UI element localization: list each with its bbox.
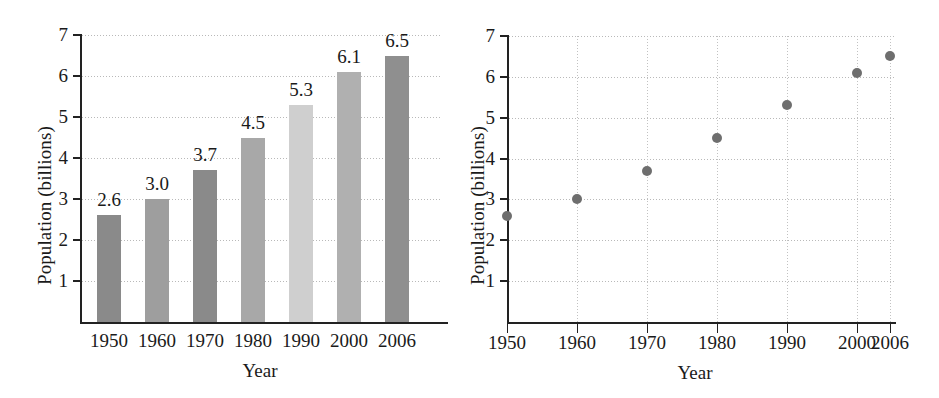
bar-value-label: 4.5 — [225, 113, 281, 132]
bar — [337, 72, 361, 322]
bar-y-tick-label: 5 — [42, 107, 68, 126]
bar-value-label: 3.7 — [177, 145, 233, 164]
scatter-x-tick-label: 1950 — [479, 333, 535, 352]
scatter-gridline-horizontal — [509, 77, 894, 78]
bar — [385, 56, 409, 322]
bar-x-tick-label: 1980 — [227, 331, 279, 350]
scatter-x-tick-label: 1980 — [689, 333, 745, 352]
bar-x-tick-label: 1960 — [131, 331, 183, 350]
scatter-y-tick-label: 2 — [469, 230, 495, 249]
bar-y-axis-line — [80, 35, 82, 324]
scatter-y-tick-label: 1 — [469, 271, 495, 290]
scatter-data-point — [642, 166, 652, 176]
bar-chart-panel: Population (billions) 12345672.619503.01… — [0, 0, 470, 398]
scatter-data-point — [712, 133, 722, 143]
scatter-data-point — [502, 211, 512, 221]
scatter-x-axis-line — [507, 322, 896, 324]
scatter-x-tick-label: 1990 — [759, 333, 815, 352]
scatter-gridline-horizontal — [509, 240, 894, 241]
scatter-data-point — [885, 51, 895, 61]
bar — [241, 138, 265, 322]
scatter-chart-x-axis-label: Year — [635, 362, 755, 384]
scatter-chart-plot-area: 12345671950196019701980199020002006 — [470, 0, 939, 398]
scatter-x-tick-label: 1960 — [549, 333, 605, 352]
bar-y-tick-label: 7 — [42, 25, 68, 44]
scatter-gridline-vertical — [890, 36, 891, 322]
scatter-y-tick-label: 4 — [469, 149, 495, 168]
scatter-gridline-horizontal — [509, 159, 894, 160]
scatter-gridline-vertical — [577, 36, 578, 322]
bar-y-tick-label: 1 — [42, 271, 68, 290]
bar — [193, 170, 217, 322]
bar-value-label: 6.5 — [369, 31, 425, 50]
bar — [145, 199, 169, 322]
scatter-gridline-horizontal — [509, 281, 894, 282]
scatter-chart-panel: Population (billions) 123456719501960197… — [470, 0, 939, 398]
bar-x-tick-label: 2000 — [323, 331, 375, 350]
scatter-x-tick-label: 2006 — [862, 333, 918, 352]
bar-value-label: 3.0 — [129, 174, 185, 193]
scatter-data-point — [852, 68, 862, 78]
scatter-gridline-vertical — [857, 36, 858, 322]
scatter-y-tick-label: 5 — [469, 108, 495, 127]
bar — [289, 105, 313, 322]
bar-chart-plot-area: 12345672.619503.019603.719704.519805.319… — [0, 0, 470, 398]
scatter-gridline-horizontal — [509, 36, 894, 37]
bar — [97, 215, 121, 322]
scatter-y-tick-label: 3 — [469, 189, 495, 208]
scatter-y-axis-line — [507, 36, 509, 324]
scatter-gridline-vertical — [647, 36, 648, 322]
scatter-gridline-horizontal — [509, 118, 894, 119]
bar-y-tick-label: 4 — [42, 148, 68, 167]
scatter-data-point — [782, 100, 792, 110]
two-panel-population-figure: Population (billions) 12345672.619503.01… — [0, 0, 939, 398]
bar-chart-x-axis-label: Year — [200, 360, 320, 382]
bar-x-tick-label: 1970 — [179, 331, 231, 350]
scatter-gridline-vertical — [717, 36, 718, 322]
scatter-data-point — [572, 194, 582, 204]
scatter-gridline-horizontal — [509, 199, 894, 200]
bar-y-tick-label: 2 — [42, 230, 68, 249]
bar-x-tick-label: 1950 — [83, 331, 135, 350]
bar-value-label: 5.3 — [273, 80, 329, 99]
bar-x-axis-line — [80, 322, 448, 324]
scatter-x-tick-label: 1970 — [619, 333, 675, 352]
bar-y-tick-label: 6 — [42, 66, 68, 85]
bar-x-tick-label: 2006 — [371, 331, 423, 350]
scatter-y-tick-label: 7 — [469, 26, 495, 45]
bar-y-tick-label: 3 — [42, 189, 68, 208]
bar-x-tick-label: 1990 — [275, 331, 327, 350]
scatter-y-tick-label: 6 — [469, 67, 495, 86]
scatter-gridline-vertical — [787, 36, 788, 322]
